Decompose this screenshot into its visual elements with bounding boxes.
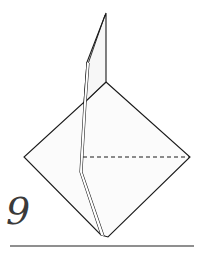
step-number: 9 — [6, 192, 30, 230]
diamond-base — [24, 82, 190, 237]
origami-step-diagram — [0, 0, 203, 254]
